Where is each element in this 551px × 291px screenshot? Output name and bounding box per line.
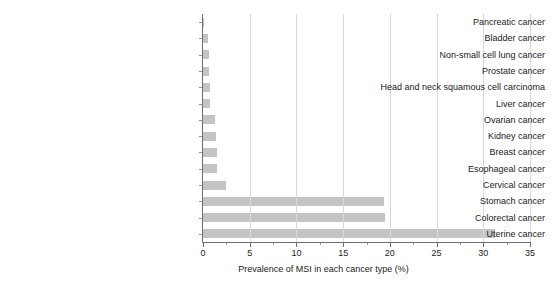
category-label: Head and neck squamous cell carcinoma — [355, 82, 551, 92]
x-tick-25 — [437, 243, 438, 247]
x-tick-label-5: 5 — [247, 248, 252, 259]
y-tick-5 — [199, 104, 202, 105]
x-tick-label-10: 10 — [291, 248, 301, 259]
gridline-20 — [390, 14, 391, 242]
gridline-30 — [483, 14, 484, 242]
category-label: Colorectal cancer — [355, 213, 551, 223]
category-label: Non-small cell lung cancer — [355, 50, 551, 60]
x-tick-label-20: 20 — [385, 248, 395, 259]
bar — [203, 115, 215, 124]
x-tick-minor-12.5 — [320, 243, 321, 245]
bar — [203, 164, 217, 173]
x-tick-minor-32.5 — [507, 243, 508, 245]
x-tick-minor-2.5 — [226, 243, 227, 245]
bar — [203, 99, 210, 108]
x-tick-15 — [343, 243, 344, 247]
x-axis-title: Prevalence of MSI in each cancer type (%… — [0, 264, 551, 274]
x-tick-label-30: 30 — [478, 248, 488, 259]
x-tick-label-35: 35 — [525, 248, 535, 259]
plot-area — [203, 14, 530, 242]
x-tick-minor-7.5 — [273, 243, 274, 245]
x-tick-label-15: 15 — [338, 248, 348, 259]
x-tick-minor-17.5 — [367, 243, 368, 245]
gridline-5 — [250, 14, 251, 242]
x-tick-5 — [250, 243, 251, 247]
x-tick-label-0: 0 — [200, 248, 205, 259]
bar — [203, 83, 210, 92]
bar — [203, 148, 217, 157]
x-tick-label-25: 25 — [432, 248, 442, 259]
x-tick-minor-27.5 — [460, 243, 461, 245]
category-label: Kidney cancer — [355, 131, 551, 141]
category-label: Prostate cancer — [355, 66, 551, 76]
category-label: Cervical cancer — [355, 180, 551, 190]
bar — [203, 181, 226, 190]
y-tick-12 — [199, 218, 202, 219]
bar — [203, 67, 209, 76]
bar — [203, 50, 209, 59]
y-tick-0 — [199, 22, 202, 23]
gridline-15 — [343, 14, 344, 242]
bar-chart-figure: 05101520253035 Pancreatic cancerBladder … — [0, 0, 551, 291]
y-tick-10 — [199, 185, 202, 186]
category-label: Esophageal cancer — [355, 164, 551, 174]
bar — [203, 34, 208, 43]
gridline-35 — [530, 14, 531, 242]
category-label: Breast cancer — [355, 147, 551, 157]
y-tick-11 — [199, 201, 202, 202]
x-axis-title-text: Prevalence of MSI in each cancer type (%… — [142, 264, 409, 274]
x-tick-0 — [203, 243, 204, 247]
y-tick-6 — [199, 120, 202, 121]
bar — [203, 18, 204, 27]
category-label: Ovarian cancer — [355, 115, 551, 125]
category-label: Uterine cancer — [355, 229, 551, 239]
x-tick-35 — [530, 243, 531, 247]
gridline-25 — [437, 14, 438, 242]
bar — [203, 132, 216, 141]
x-tick-10 — [296, 243, 297, 247]
y-tick-3 — [199, 71, 202, 72]
x-tick-30 — [483, 243, 484, 247]
gridline-10 — [296, 14, 297, 242]
y-tick-1 — [199, 38, 202, 39]
category-label: Bladder cancer — [355, 33, 551, 43]
y-tick-7 — [199, 136, 202, 137]
x-tick-minor-22.5 — [413, 243, 414, 245]
x-tick-20 — [390, 243, 391, 247]
category-label: Pancreatic cancer — [355, 17, 551, 27]
y-tick-4 — [199, 87, 202, 88]
category-label: Liver cancer — [355, 99, 551, 109]
y-tick-2 — [199, 55, 202, 56]
y-tick-13 — [199, 234, 202, 235]
y-tick-8 — [199, 152, 202, 153]
y-tick-9 — [199, 169, 202, 170]
category-label: Stomach cancer — [355, 196, 551, 206]
